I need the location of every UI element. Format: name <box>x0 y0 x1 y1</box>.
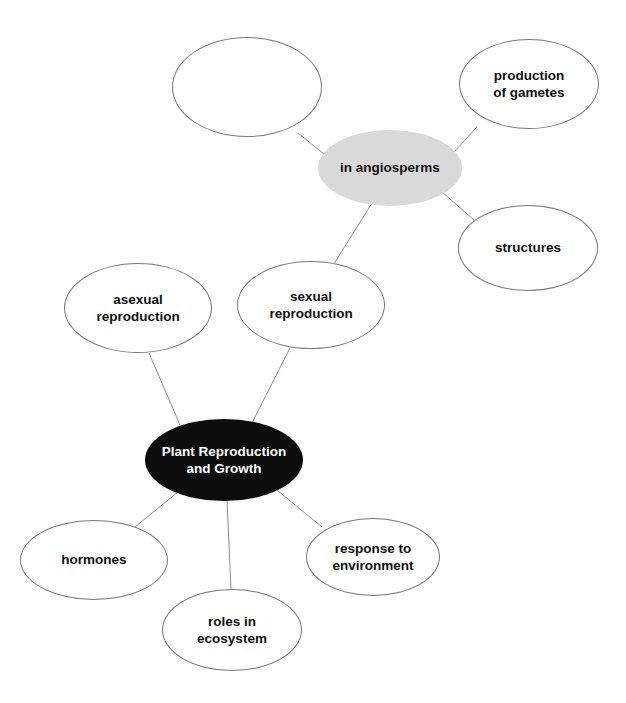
node-label-production-of-gametes: production of gametes <box>487 67 570 102</box>
node-label-sexual-reproduction: sexual reproduction <box>263 288 358 323</box>
connector-sexual-reproduction-to-in-angiosperms <box>332 203 372 267</box>
node-label-response-to-environment: response to environment <box>326 540 419 575</box>
node-hormones[interactable]: hormones <box>20 520 168 600</box>
connector-plant-reproduction-and-growth-to-roles-in-ecosystem <box>227 500 231 590</box>
node-label-in-angiosperms: in angiosperms <box>334 159 446 176</box>
node-label-roles-in-ecosystem: roles in ecosystem <box>191 613 273 648</box>
node-label-asexual-reproduction: asexual reproduction <box>90 291 185 326</box>
connector-plant-reproduction-and-growth-to-hormones <box>135 492 178 527</box>
connector-plant-reproduction-and-growth-to-sexual-reproduction <box>252 348 290 423</box>
node-structures[interactable]: structures <box>458 205 598 291</box>
connector-plant-reproduction-and-growth-to-response-to-environment <box>277 490 322 527</box>
concept-map-canvas: production of gametesin angiospermsstruc… <box>0 0 626 703</box>
connector-plant-reproduction-and-growth-to-asexual-reproduction <box>149 353 180 425</box>
node-response-to-environment[interactable]: response to environment <box>306 518 440 596</box>
node-production-of-gametes[interactable]: production of gametes <box>459 39 599 129</box>
node-sexual-reproduction[interactable]: sexual reproduction <box>237 261 385 349</box>
node-label-plant-reproduction-and-growth: Plant Reproduction and Growth <box>156 443 293 478</box>
node-blank-topic[interactable] <box>172 37 322 137</box>
node-plant-reproduction-and-growth[interactable]: Plant Reproduction and Growth <box>145 419 303 501</box>
node-asexual-reproduction[interactable]: asexual reproduction <box>64 263 212 353</box>
node-in-angiosperms[interactable]: in angiosperms <box>318 130 462 206</box>
node-label-hormones: hormones <box>55 551 132 568</box>
node-label-structures: structures <box>489 239 567 256</box>
node-roles-in-ecosystem[interactable]: roles in ecosystem <box>162 589 302 671</box>
